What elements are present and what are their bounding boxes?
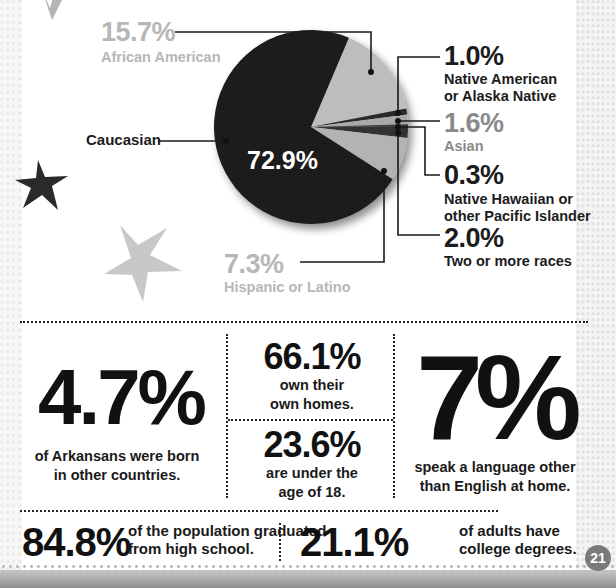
hawaiian-percent: 0.3% bbox=[444, 162, 504, 189]
leader-hawaiian-dot bbox=[395, 124, 401, 130]
college-caption-line1: of adults have bbox=[459, 522, 577, 540]
leader-african-american-dot bbox=[368, 69, 374, 75]
other-language-value: 7% bbox=[400, 337, 590, 457]
high-school-caption: of the population graduated from high sc… bbox=[128, 522, 326, 558]
divider-top bbox=[20, 321, 588, 323]
star-icon-top bbox=[42, 0, 66, 20]
other-language-caption-line2: than English at home. bbox=[400, 477, 590, 496]
infographic-page: 15.7% African American Caucasian 72.9% 1… bbox=[0, 0, 616, 588]
leader-hispanic-dot bbox=[381, 168, 387, 174]
leader-native-american-dot bbox=[395, 110, 401, 116]
asian-label: Asian bbox=[444, 138, 484, 155]
leader-caucasian-dot bbox=[223, 138, 229, 144]
college-caption: of adults have college degrees. bbox=[459, 522, 577, 558]
leader-two-or-more-dot bbox=[395, 130, 401, 136]
divider-middle bbox=[228, 419, 393, 421]
divider-bottom bbox=[20, 510, 498, 512]
star-icon-light bbox=[104, 225, 182, 302]
homeowners-caption-line2: own homes. bbox=[232, 395, 392, 414]
high-school-caption-line1: of the population graduated bbox=[128, 522, 326, 540]
homeowners-caption: own their own homes. bbox=[232, 376, 392, 414]
homeowners-value: 66.1% bbox=[232, 339, 392, 375]
foreign-born-caption-line2: in other countries. bbox=[22, 466, 212, 485]
native-american-label-line1: Native American bbox=[444, 71, 557, 88]
foreign-born-caption-line1: of Arkansans were born bbox=[22, 447, 212, 466]
under-18-caption: are under the age of 18. bbox=[232, 464, 392, 502]
college-caption-line2: college degrees. bbox=[459, 540, 577, 558]
divider-left-column bbox=[226, 334, 228, 498]
two-or-more-label: Two or more races bbox=[444, 253, 572, 270]
grunge-border-bottom bbox=[0, 570, 616, 588]
under-18-caption-line2: age of 18. bbox=[232, 483, 392, 502]
hispanic-percent: 7.3% bbox=[224, 251, 284, 278]
high-school-value: 84.8% bbox=[22, 522, 130, 562]
star-icon-dark bbox=[15, 160, 68, 210]
caucasian-label: Caucasian bbox=[86, 132, 161, 147]
other-language-caption: speak a language other than English at h… bbox=[400, 458, 590, 496]
hawaiian-label-line1: Native Hawaiian or bbox=[444, 191, 573, 208]
college-value: 21.1% bbox=[300, 522, 408, 562]
foreign-born-caption: of Arkansans were born in other countrie… bbox=[22, 447, 212, 485]
asian-percent: 1.6% bbox=[444, 110, 504, 137]
high-school-caption-line2: from high school. bbox=[128, 540, 326, 558]
page-number-badge: 21 bbox=[585, 545, 611, 571]
foreign-born-value: 4.7% bbox=[26, 358, 216, 436]
native-american-label-line2: or Alaska Native bbox=[444, 88, 556, 105]
other-language-caption-line1: speak a language other bbox=[400, 458, 590, 477]
caucasian-percent: 72.9% bbox=[247, 148, 318, 173]
african-american-percent: 15.7% bbox=[101, 19, 175, 46]
under-18-value: 23.6% bbox=[232, 427, 392, 463]
divider-right-column bbox=[393, 334, 395, 498]
native-american-percent: 1.0% bbox=[444, 43, 504, 70]
homeowners-caption-line1: own their bbox=[232, 376, 392, 395]
under-18-caption-line1: are under the bbox=[232, 464, 392, 483]
african-american-label: African American bbox=[101, 49, 221, 66]
leader-asian-dot bbox=[395, 118, 401, 124]
two-or-more-percent: 2.0% bbox=[444, 225, 504, 252]
hispanic-label: Hispanic or Latino bbox=[224, 279, 351, 296]
